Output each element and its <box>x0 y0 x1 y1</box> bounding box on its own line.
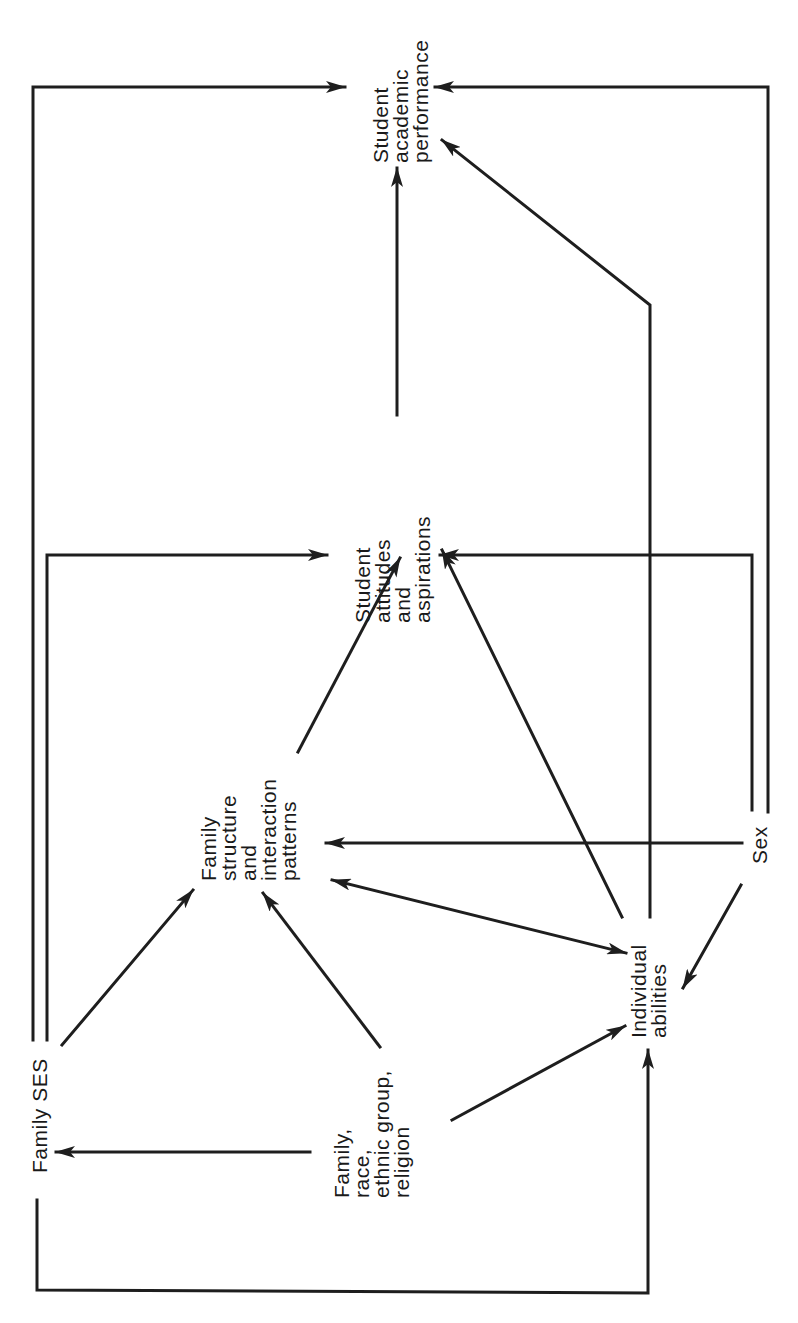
node-student-attitudes-aspirations: Student attitudes and aspirations <box>351 516 434 623</box>
edge-ses-to-attitudes <box>47 555 327 1040</box>
node-label-line: Family SES <box>28 1058 51 1173</box>
node-label-line: performance <box>409 40 432 163</box>
node-label-line: patterns <box>277 801 300 881</box>
node-family-ses: Family SES <box>28 1058 51 1173</box>
edge-sex-to-performance <box>435 87 768 812</box>
node-sex: Sex <box>748 826 771 864</box>
edge-abilities-to-performance <box>442 140 650 917</box>
node-family-structure-interaction: Family structure and interaction pattern… <box>197 779 300 881</box>
node-label-line: religion <box>390 1126 413 1198</box>
node-label-line: abilities <box>647 963 670 1038</box>
node-student-academic-performance: Student academic performance <box>369 40 432 163</box>
edge-structure-abilities-bidirectional <box>332 880 626 953</box>
node-label-line: aspirations <box>411 516 434 623</box>
edge-sex-to-abilities <box>683 885 741 988</box>
edge-sex-to-attitudes <box>440 555 752 810</box>
node-label-line: Sex <box>748 826 771 864</box>
edge-race-to-abilities <box>452 1026 625 1120</box>
edge-race-to-structure <box>263 893 380 1047</box>
node-family-race-ethnic-religion: Family, race, ethnic group, religion <box>330 1070 413 1198</box>
path-diagram: Student academic performance Student att… <box>0 0 798 1323</box>
edge-ses-to-structure <box>62 890 193 1045</box>
node-individual-abilities: Individual abilities <box>627 944 670 1038</box>
edge-abilities-to-attitudes <box>442 550 622 917</box>
edges <box>33 87 768 1293</box>
